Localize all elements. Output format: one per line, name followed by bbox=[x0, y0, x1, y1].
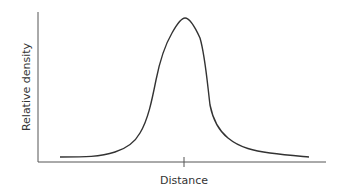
density-chart: Distance Relative density bbox=[0, 0, 343, 195]
y-axis-label: Relative density bbox=[20, 42, 33, 131]
density-curve bbox=[60, 18, 309, 157]
x-axis-label: Distance bbox=[160, 174, 208, 187]
